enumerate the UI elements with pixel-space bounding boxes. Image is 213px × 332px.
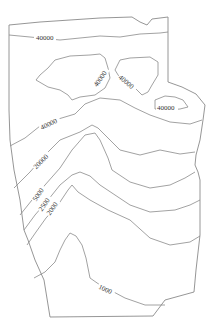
contour-line-1000 (34, 233, 165, 305)
svg-text:40000: 40000 (36, 34, 54, 42)
svg-text:40000: 40000 (39, 117, 59, 132)
label-left-island: 40000 (91, 67, 110, 90)
label-mid-island: 40000 (116, 73, 138, 93)
svg-text:40000: 40000 (157, 104, 175, 112)
label-upper-curve: 40000 (38, 116, 61, 133)
label-20000: 20000 (31, 150, 52, 171)
label-1000: 1000 (96, 283, 116, 298)
contour-map: 40000 40000 40000 40000 40000 20000 5000… (0, 0, 213, 332)
label-top-band: 40000 (34, 34, 56, 42)
contour-line-top (9, 32, 168, 40)
label-right-island: 40000 (156, 104, 178, 112)
